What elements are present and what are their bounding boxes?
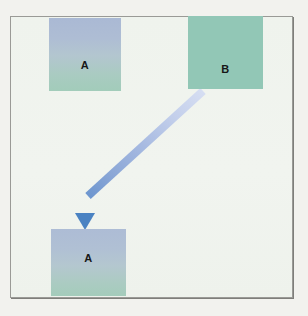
diagram-panel: A B A	[10, 16, 293, 298]
diagram-panel-background: A B A	[11, 17, 292, 297]
node-a-top-label: A	[81, 59, 89, 71]
arrowhead-icon	[75, 213, 95, 230]
node-b[interactable]: B	[188, 16, 263, 89]
node-b-label: B	[221, 63, 229, 75]
diagram-canvas: A B A	[0, 0, 308, 316]
clipped-header-text	[12, 0, 192, 4]
node-a-bottom-label: A	[84, 252, 92, 264]
edge-b-to-a-bottom	[88, 91, 203, 196]
node-a-top[interactable]: A	[49, 18, 121, 91]
node-a-bottom[interactable]: A	[51, 229, 126, 296]
